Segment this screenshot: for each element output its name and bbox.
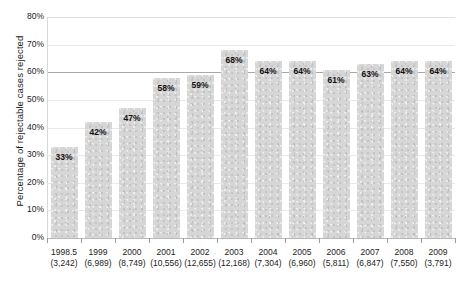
bar-slot: 59% <box>187 17 214 238</box>
x-tick-mark <box>149 238 150 243</box>
x-tick-label: 2003(12,168) <box>217 247 251 269</box>
bar-slot: 58% <box>153 17 180 238</box>
bar-slot: 33% <box>51 17 78 238</box>
bar-slot: 64% <box>425 17 452 238</box>
x-tick-mark <box>115 238 116 243</box>
x-tick-label-year: 2006 <box>327 247 346 257</box>
x-tick-label-count: (8,749) <box>115 258 149 269</box>
y-tick-label-20: 20% <box>4 178 44 187</box>
bar[interactable]: 61% <box>323 70 350 239</box>
x-tick-mark <box>217 238 218 243</box>
x-tick-label: 1999(6,989) <box>81 247 115 269</box>
bar-slot: 42% <box>85 17 112 238</box>
bar[interactable]: 33% <box>51 147 78 238</box>
x-tick-label-year: 2002 <box>191 247 210 257</box>
x-tick-label-count: (7,304) <box>251 258 285 269</box>
x-tick-label-year: 2007 <box>361 247 380 257</box>
x-tick-mark <box>353 238 354 243</box>
x-tick-label-year: 2000 <box>123 247 142 257</box>
bar-value-label: 64% <box>255 66 282 76</box>
x-tick-label-year: 2008 <box>395 247 414 257</box>
x-tick-label-year: 2005 <box>293 247 312 257</box>
y-tick-label-0: 0% <box>4 233 44 242</box>
x-tick-label-count: (3,791) <box>421 258 455 269</box>
bar-value-label: 61% <box>323 75 350 85</box>
bar[interactable]: 64% <box>391 61 418 238</box>
x-tick-mark-origin <box>47 238 48 243</box>
x-tick-label: 2001(10,556) <box>149 247 183 269</box>
bar[interactable]: 47% <box>119 108 146 238</box>
x-tick-mark <box>421 238 422 243</box>
x-tick-label-count: (7,550) <box>387 258 421 269</box>
x-tick-label-count: (6,847) <box>353 258 387 269</box>
x-tick-label-year: 2003 <box>225 247 244 257</box>
x-tick-mark <box>251 238 252 243</box>
x-tick-label-year: 2001 <box>157 247 176 257</box>
x-tick-mark <box>285 238 286 243</box>
x-tick-label: 2004(7,304) <box>251 247 285 269</box>
bar[interactable]: 64% <box>425 61 452 238</box>
x-tick-mark <box>183 238 184 243</box>
bar-value-label: 47% <box>119 113 146 123</box>
x-tick-label-count: (12,655) <box>183 258 217 269</box>
bar-slot: 64% <box>289 17 316 238</box>
bar-value-label: 64% <box>391 66 418 76</box>
bar-slot: 47% <box>119 17 146 238</box>
x-tick-label: 2005(6,960) <box>285 247 319 269</box>
x-tick-label-count: (5,811) <box>319 258 353 269</box>
x-tick-label: 2007(6,847) <box>353 247 387 269</box>
y-tick-label-50: 50% <box>4 95 44 104</box>
bar-value-label: 68% <box>221 55 248 65</box>
x-tick-mark <box>319 238 320 243</box>
x-tick-label: 1998.5(3,242) <box>47 247 81 269</box>
x-tick-label-count: (12,168) <box>217 258 251 269</box>
bar-value-label: 63% <box>357 69 384 79</box>
y-tick-label-70: 70% <box>4 40 44 49</box>
bar[interactable]: 64% <box>255 61 282 238</box>
x-tick-label-count: (3,242) <box>47 258 81 269</box>
x-tick-mark <box>81 238 82 243</box>
bar[interactable]: 63% <box>357 64 384 238</box>
bar-value-label: 42% <box>85 127 112 137</box>
bar-slot: 61% <box>323 17 350 238</box>
bar-value-label: 58% <box>153 83 180 93</box>
bar-value-label: 59% <box>187 80 214 90</box>
x-tick-label: 2006(5,811) <box>319 247 353 269</box>
x-tick-label-count: (6,960) <box>285 258 319 269</box>
x-tick-label-count: (6,989) <box>81 258 115 269</box>
bar[interactable]: 68% <box>221 50 248 238</box>
bar-chart: Percentage of rejectable cases rejected … <box>0 0 461 282</box>
y-tick-label-30: 30% <box>4 150 44 159</box>
y-tick-label-60: 60% <box>4 67 44 76</box>
x-tick-label-count: (10,556) <box>149 258 183 269</box>
bar[interactable]: 64% <box>289 61 316 238</box>
x-tick-label-year: 2004 <box>259 247 278 257</box>
bar-slot: 64% <box>255 17 282 238</box>
x-tick-label: 2000(8,749) <box>115 247 149 269</box>
bar-value-label: 33% <box>51 152 78 162</box>
x-tick-label-year: 1999 <box>89 247 108 257</box>
bar-value-label: 64% <box>425 66 452 76</box>
y-tick-label-10: 10% <box>4 205 44 214</box>
x-tick-mark <box>387 238 388 243</box>
bars-layer: 33%42%47%58%59%68%64%64%61%63%64%64% <box>47 17 455 238</box>
x-tick-label-year: 2009 <box>429 247 448 257</box>
bar-slot: 64% <box>391 17 418 238</box>
x-tick-label: 2002(12,655) <box>183 247 217 269</box>
x-tick-mark <box>455 238 456 243</box>
y-axis-tick-labels: 0%10%20%30%40%50%60%70%80% <box>0 0 44 282</box>
x-tick-label-year: 1998.5 <box>51 247 77 257</box>
bar[interactable]: 59% <box>187 75 214 238</box>
bar[interactable]: 42% <box>85 122 112 238</box>
x-tick-label: 2008(7,550) <box>387 247 421 269</box>
bar-slot: 63% <box>357 17 384 238</box>
bar-slot: 68% <box>221 17 248 238</box>
y-tick-label-80: 80% <box>4 12 44 21</box>
bar-value-label: 64% <box>289 66 316 76</box>
bar[interactable]: 58% <box>153 78 180 238</box>
x-tick-label: 2009(3,791) <box>421 247 455 269</box>
y-tick-label-40: 40% <box>4 123 44 132</box>
